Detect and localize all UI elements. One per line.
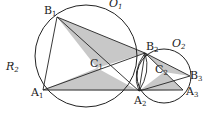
label-b3: B3 — [190, 69, 203, 83]
shaded-triangle-b1-b2-c1 — [57, 17, 145, 68]
line-a1-b1 — [43, 17, 57, 90]
label-o1: O1 — [109, 0, 123, 11]
label-o2: O2 — [172, 37, 186, 51]
label-a2: A2 — [133, 94, 146, 108]
label-r2: R2 — [5, 60, 19, 74]
shaded-triangle-a1-c1-a2 — [43, 68, 139, 91]
label-a3: A3 — [185, 85, 198, 99]
label-a1: A1 — [30, 86, 43, 100]
label-b2: B2 — [146, 40, 159, 54]
label-b1: B1 — [44, 4, 57, 18]
geometry-diagram: O1 O2 R2 B1 B2 B3 A1 A2 A3 C1 C2 — [0, 0, 204, 126]
